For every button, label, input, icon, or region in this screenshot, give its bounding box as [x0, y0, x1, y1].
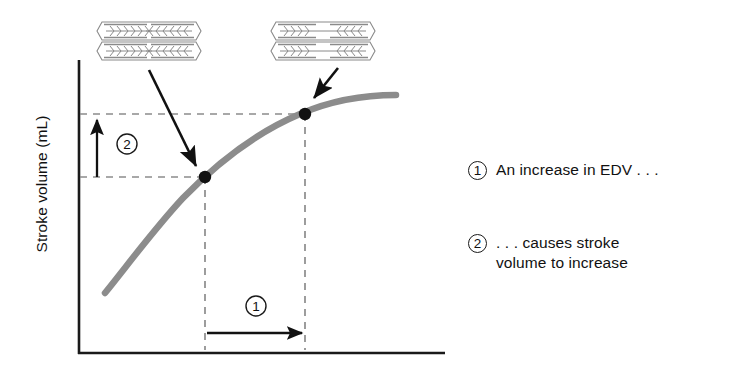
chart-axes: [78, 60, 445, 354]
legend-text-1: An increase in EDV . . .: [496, 160, 659, 180]
stretched-sarcomere: [271, 22, 375, 60]
pointer-arrow-stretched: [314, 68, 338, 98]
legend-marker-2: 2: [468, 234, 487, 253]
data-point-baseline: [199, 171, 211, 183]
legend-item-1: 1 An increase in EDV . . .: [468, 160, 659, 180]
annotation-1-number: 1: [252, 299, 260, 314]
legend-marker-1: 1: [468, 161, 487, 180]
frank-starling-figure: 2 1 Stroke volume (mL) 1 An increase in …: [0, 0, 729, 383]
contracted-sarcomere-upper-cell: [97, 22, 201, 40]
stretched-sarcomere-upper-cell: [271, 22, 375, 40]
legend-text-2: . . . causes stroke volume to increase: [496, 233, 628, 273]
starling-curve: [105, 95, 396, 293]
contracted-sarcomere: [97, 22, 201, 60]
data-point-increased: [299, 108, 311, 120]
pointer-arrow-contracted: [149, 70, 196, 166]
annotation-2-number: 2: [123, 137, 131, 152]
guide-lines: [80, 114, 305, 350]
contracted-sarcomere-lower-cell: [97, 42, 201, 60]
legend-item-2: 2 . . . causes stroke volume to increase: [468, 233, 628, 273]
y-axis-label: Stroke volume (mL): [33, 79, 51, 289]
annotation-1-marker: 1: [246, 296, 266, 316]
annotation-2-marker: 2: [117, 134, 137, 154]
chart-canvas: 2 1: [0, 0, 729, 383]
stretched-sarcomere-lower-cell: [271, 42, 375, 60]
